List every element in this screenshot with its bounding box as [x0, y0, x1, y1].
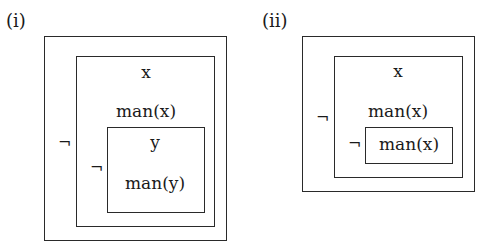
- diagram-i-inner-predicate: man(y): [125, 175, 185, 192]
- diagram-i-label: (i): [6, 12, 26, 30]
- diagram-ii-inner-negation: ¬: [348, 136, 361, 152]
- diagram-ii-middle-var: x: [393, 63, 403, 80]
- diagram-i-middle-predicate: man(x): [116, 103, 176, 120]
- diagram-i-inner-negation: ¬: [90, 160, 103, 176]
- diagram-i-middle-negation: ¬: [58, 135, 71, 151]
- diagram-ii-middle-predicate: man(x): [368, 103, 428, 120]
- diagram-ii-label: (ii): [262, 12, 288, 30]
- diagram-ii-middle-negation: ¬: [316, 110, 329, 126]
- diagram-ii-inner-predicate: man(x): [379, 136, 439, 153]
- diagram-i-middle-var: x: [141, 64, 151, 81]
- diagram-i-inner-var: y: [150, 134, 160, 151]
